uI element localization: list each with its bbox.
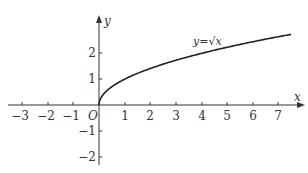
chart: −3 −2 −1 1 2 3 4 5 6 7 2 1 −1 −2 O x y y… (0, 0, 308, 173)
x-tick-labels: −3 −2 −1 1 2 3 4 5 6 7 (11, 109, 282, 123)
x-tick-label: 4 (198, 109, 206, 123)
x-axis-label: x (294, 90, 301, 104)
y-axis (96, 15, 102, 165)
curve-label: y=√x (192, 35, 222, 48)
x-tick-label: 5 (223, 109, 231, 123)
y-tick-label: −2 (78, 150, 96, 164)
y-axis-label: y (103, 14, 111, 28)
y-tick-label: 1 (88, 72, 96, 86)
y-tick-label: −1 (78, 124, 96, 138)
y-tick-label: 2 (88, 46, 96, 60)
x-tick-label: 6 (249, 109, 257, 123)
x-tick-label: 7 (274, 109, 282, 123)
origin-label: O (88, 109, 98, 123)
y-axis-arrow-icon (96, 15, 102, 23)
x-tick-label: 1 (121, 109, 129, 123)
x-tick-label: −3 (11, 109, 29, 123)
x-tick-label: −2 (37, 109, 55, 123)
x-tick-label: −1 (62, 109, 80, 123)
svg-text:y=√x: y=√x (192, 35, 222, 48)
x-tick-label: 2 (146, 109, 154, 123)
x-tick-label: 3 (172, 109, 180, 123)
x-axis (8, 102, 305, 108)
